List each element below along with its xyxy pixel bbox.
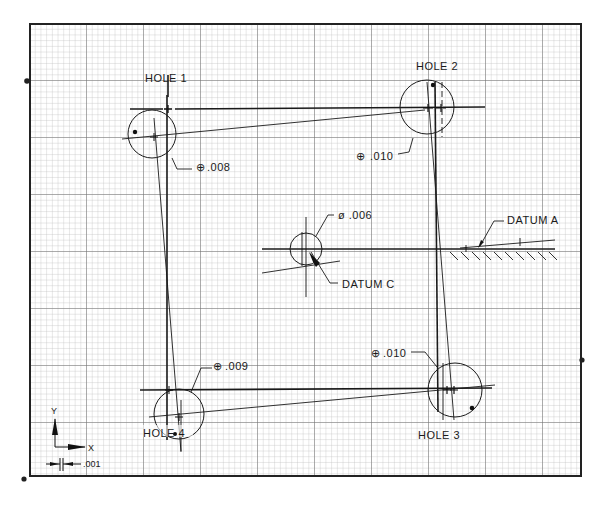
hole-1-tolerance: .008 <box>207 161 230 173</box>
hole-4-position-symbol: ⊕ <box>213 360 223 372</box>
hole-2-mark <box>431 83 435 87</box>
graph-paper <box>30 24 581 476</box>
hole-1-mark <box>133 130 137 134</box>
x-axis-label: X <box>88 443 94 453</box>
datum-a-label: DATUM A <box>507 214 559 226</box>
hole-3-mark <box>470 406 475 411</box>
hole-pattern-drawing: ⊕ .008 HOLE 1 ⊕ .010 HOLE 2 ø .006 DATUM… <box>0 0 607 507</box>
hole-4-label: HOLE 4 <box>143 427 185 439</box>
hole-2-label: HOLE 2 <box>416 60 458 72</box>
punch-mark-bottom-left <box>21 476 26 481</box>
hole-3-label: HOLE 3 <box>418 429 460 441</box>
punch-mark-right <box>579 357 584 362</box>
scale-label: .001 <box>83 459 101 469</box>
hole-3-tolerance: .010 <box>383 347 406 359</box>
hole-4-mark <box>173 432 177 436</box>
punch-mark-left <box>24 78 30 84</box>
datum-c-label: DATUM C <box>342 278 395 290</box>
hole-1-position-symbol: ⊕ <box>196 161 206 173</box>
hole-1-label: HOLE 1 <box>145 72 187 84</box>
datum-c-tolerance: ø .006 <box>338 209 372 221</box>
hole-3-position-symbol: ⊕ <box>371 347 381 359</box>
hole-2-tolerance: .010 <box>370 150 393 162</box>
hole-2-position-symbol: ⊕ <box>356 150 366 162</box>
y-axis-label: Y <box>51 406 57 416</box>
hole-4-tolerance: .009 <box>225 360 248 372</box>
